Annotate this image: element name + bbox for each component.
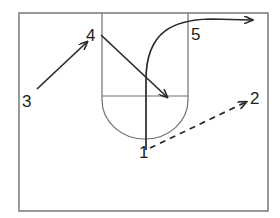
- court-boundary: [19, 13, 268, 211]
- basketball-play-diagram: 1 2 3 4 5: [0, 0, 280, 218]
- player-4-label: 4: [86, 26, 95, 45]
- cut-path-4-to-lane: [101, 35, 167, 97]
- player-1-label: 1: [139, 143, 148, 162]
- player-3-label: 3: [22, 92, 31, 111]
- pass-path-1-to-2: [150, 102, 246, 148]
- player-2-label: 2: [250, 89, 259, 108]
- free-throw-circle: [102, 96, 188, 139]
- cut-path-3-to-4: [37, 42, 87, 89]
- player-5-label: 5: [191, 25, 200, 44]
